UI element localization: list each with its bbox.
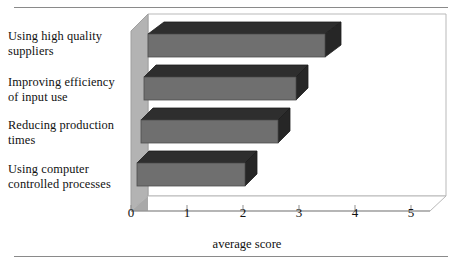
bar-using-high-quality-suppliers bbox=[148, 22, 341, 57]
x-tick-label-4: 4 bbox=[343, 205, 367, 221]
chart-figure: Using high quality suppliers Improving e… bbox=[0, 0, 462, 267]
category-label-line1: Using high quality bbox=[8, 29, 130, 44]
bar-front-face bbox=[144, 77, 296, 100]
category-label-line1: Using computer bbox=[8, 162, 130, 177]
x-tick-label-2: 2 bbox=[231, 205, 255, 221]
bar-reducing-production-times bbox=[141, 108, 290, 143]
bar-top-face bbox=[137, 151, 257, 163]
category-label-line1: Reducing production bbox=[8, 118, 130, 133]
category-label-reducing-production-times: Reducing production times bbox=[8, 118, 130, 147]
category-label-using-high-quality-suppliers: Using high quality suppliers bbox=[8, 29, 130, 58]
bar-improving-efficiency-of-input-use bbox=[144, 65, 308, 100]
category-label-line1: Improving efficiency bbox=[8, 75, 130, 90]
bar-top-face bbox=[141, 108, 290, 120]
x-tick-label-3: 3 bbox=[287, 205, 311, 221]
category-label-line2: of input use bbox=[8, 90, 130, 105]
category-label-using-computer-controlled-processes: Using computer controlled processes bbox=[8, 162, 130, 191]
x-tick-label-0: 0 bbox=[119, 205, 143, 221]
bar-using-computer-controlled-processes bbox=[137, 151, 257, 186]
x-tick-label-5: 5 bbox=[399, 205, 423, 221]
bar-top-face bbox=[148, 22, 341, 34]
category-label-improving-efficiency-of-input-use: Improving efficiency of input use bbox=[8, 75, 130, 104]
category-label-line2: controlled processes bbox=[8, 177, 130, 192]
x-axis-title: average score bbox=[0, 237, 462, 252]
bar-front-face bbox=[141, 120, 278, 143]
bar-top-face bbox=[144, 65, 308, 77]
category-label-line2: times bbox=[8, 133, 130, 148]
bar-front-face bbox=[148, 34, 325, 57]
category-label-line2: suppliers bbox=[8, 44, 130, 59]
x-tick-label-1: 1 bbox=[175, 205, 199, 221]
bar-front-face bbox=[137, 163, 245, 186]
